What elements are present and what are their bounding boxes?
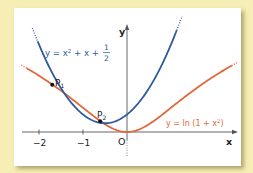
curve-ln-dotted-left	[21, 65, 26, 68]
curve-parabola-dotted-left	[32, 28, 37, 41]
parabola-fraction-denominator: 2	[104, 54, 109, 63]
x-tick-label-minus-1: −1	[77, 138, 90, 148]
point-p1	[50, 83, 54, 87]
y-axis-arrow-icon	[125, 24, 129, 30]
x-tick-label-minus-2: −2	[33, 138, 46, 148]
parabola-equation-label: y = x2 + x +	[45, 48, 99, 59]
x-axis-label: x	[226, 136, 232, 147]
curve-parabola-dotted-right	[177, 16, 182, 30]
curve-ln-dotted-right	[232, 63, 237, 66]
y-axis-label: y	[119, 26, 126, 37]
origin-label: O	[118, 136, 125, 147]
point-p1-label: P1	[55, 78, 64, 89]
chart-plot: P1 P2 −2 −1 O x y y = x2 + x + 1 2 y = l…	[0, 0, 253, 173]
x-axis-arrow-icon	[232, 130, 238, 134]
parabola-fraction-numerator: 1	[104, 43, 109, 52]
point-p2-label: P2	[97, 110, 106, 121]
ln-equation-label: y = ln (1 + x2)	[166, 118, 224, 129]
